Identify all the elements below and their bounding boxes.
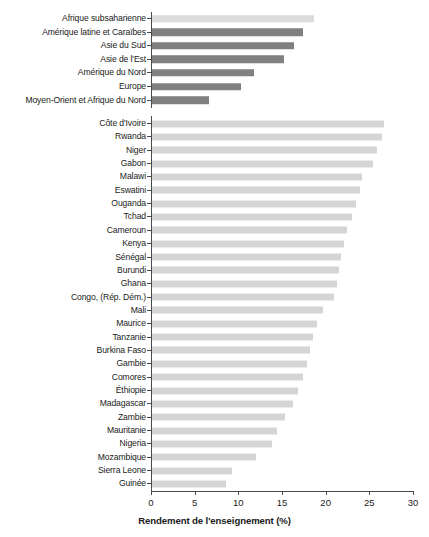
country-label-7: Tchad <box>0 212 151 221</box>
region-label-1: Amérique latine et Caraïbes <box>0 28 151 37</box>
x-axis-tick <box>326 491 327 495</box>
bar-track <box>151 225 429 236</box>
bar-chart: Afrique subsaharienneAmérique latine et … <box>0 0 429 537</box>
bar <box>151 347 310 354</box>
bar-row: Tanzanie <box>0 332 429 343</box>
bar-row: Cameroun <box>0 225 429 236</box>
bar <box>151 227 347 234</box>
bar-track <box>151 131 429 142</box>
bar-track <box>151 13 429 24</box>
bar-row: Zambie <box>0 412 429 423</box>
bar <box>151 15 314 23</box>
bar <box>151 267 339 274</box>
region-label-3: Asie de l'Est <box>0 55 151 64</box>
bar-track <box>151 438 429 449</box>
bar-track <box>151 81 429 92</box>
bar-row: Kenya <box>0 238 429 249</box>
bar-track <box>151 211 429 222</box>
bar-row: Mauritanie <box>0 425 429 436</box>
bar <box>151 173 362 180</box>
bar-row: Côte d'Ivoire <box>0 118 429 129</box>
bar-row: Gabon <box>0 158 429 169</box>
bar-row: Moyen-Orient et Afrique du Nord <box>0 95 429 106</box>
bar <box>151 200 356 207</box>
country-label-2: Niger <box>0 146 151 155</box>
x-axis-tick-label: 5 <box>192 497 197 508</box>
bar-row: Ouganda <box>0 198 429 209</box>
bar-row: Sénégal <box>0 252 429 263</box>
bar <box>151 133 382 140</box>
country-label-19: Comores <box>0 373 151 382</box>
country-label-3: Gabon <box>0 159 151 168</box>
country-label-12: Ghana <box>0 279 151 288</box>
bar <box>151 147 377 154</box>
bar-track <box>151 318 429 329</box>
bar <box>151 334 313 341</box>
country-label-11: Burundi <box>0 266 151 275</box>
region-label-6: Moyen-Orient et Afrique du Nord <box>0 96 151 105</box>
bar <box>151 360 307 367</box>
bar-track <box>151 332 429 343</box>
bar-row: Malawi <box>0 171 429 182</box>
x-axis-tick <box>282 491 283 495</box>
bar-track <box>151 412 429 423</box>
bar <box>151 254 341 261</box>
bar-row: Congo, (Rép. Dém.) <box>0 292 429 303</box>
bar-track <box>151 345 429 356</box>
country-label-0: Côte d'Ivoire <box>0 119 151 128</box>
bar <box>151 42 294 50</box>
country-label-20: Éthiopie <box>0 386 151 395</box>
bar-track <box>151 478 429 489</box>
bar-row: Sierra Leone <box>0 465 429 476</box>
bar <box>151 56 284 64</box>
bar <box>151 280 337 287</box>
bar <box>151 160 373 167</box>
bar-track <box>151 385 429 396</box>
bar-track <box>151 358 429 369</box>
country-label-4: Malawi <box>0 172 151 181</box>
bar-track <box>151 198 429 209</box>
bar-row: Amérique du Nord <box>0 67 429 78</box>
bar <box>151 480 226 487</box>
country-label-18: Gambie <box>0 359 151 368</box>
bar-row: Éthiopie <box>0 385 429 396</box>
x-axis-tick <box>369 491 370 495</box>
bar-track <box>151 398 429 409</box>
bar-row: Eswatini <box>0 185 429 196</box>
y-axis-countries <box>151 116 152 491</box>
bar-track <box>151 95 429 106</box>
bar-row: Ghana <box>0 278 429 289</box>
x-axis-tick <box>195 491 196 495</box>
bar-track <box>151 278 429 289</box>
bar-row: Tchad <box>0 211 429 222</box>
bar-track <box>151 54 429 65</box>
bar-track <box>151 292 429 303</box>
bar-row: Gambie <box>0 358 429 369</box>
bar <box>151 400 293 407</box>
x-axis-tick-label: 0 <box>148 497 153 508</box>
region-label-2: Asie du Sud <box>0 41 151 50</box>
bar-track <box>151 465 429 476</box>
bar-track <box>151 238 429 249</box>
bar-row: Mali <box>0 305 429 316</box>
bar-track <box>151 158 429 169</box>
bar-row: Maurice <box>0 318 429 329</box>
country-label-15: Maurice <box>0 319 151 328</box>
x-axis-tick-label: 10 <box>233 497 244 508</box>
country-label-8: Cameroun <box>0 226 151 235</box>
country-label-17: Burkina Faso <box>0 346 151 355</box>
country-label-5: Eswatini <box>0 186 151 195</box>
bar-row: Comores <box>0 372 429 383</box>
bar-track <box>151 27 429 38</box>
bar-row: Madagascar <box>0 398 429 409</box>
country-label-22: Zambie <box>0 413 151 422</box>
bar <box>151 96 209 104</box>
bar-track <box>151 40 429 51</box>
bar-track <box>151 67 429 78</box>
country-label-26: Sierra Leone <box>0 466 151 475</box>
bar <box>151 294 334 301</box>
bar-row: Afrique subsaharienne <box>0 13 429 24</box>
country-label-27: Guinée <box>0 479 151 488</box>
bar <box>151 414 285 421</box>
bar-row: Mozambique <box>0 452 429 463</box>
